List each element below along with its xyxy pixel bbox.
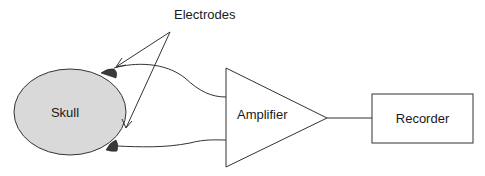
wire-bottom <box>117 140 226 147</box>
eeg-diagram: Skull Electrodes Amplifier Recorder <box>0 0 485 176</box>
wire-top <box>114 64 226 97</box>
recorder-node: Recorder <box>372 94 473 143</box>
amplifier-node: Amplifier <box>226 68 327 167</box>
electrodes-label: Electrodes <box>174 7 236 22</box>
recorder-label: Recorder <box>396 111 450 126</box>
amplifier-label: Amplifier <box>237 107 288 122</box>
skull-label: Skull <box>51 105 79 120</box>
electrode-top-icon <box>101 69 117 78</box>
skull-node: Skull <box>14 69 126 155</box>
